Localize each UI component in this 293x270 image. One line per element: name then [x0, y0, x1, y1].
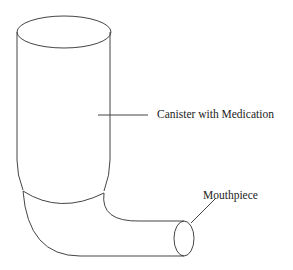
canister-label: Canister with Medication: [157, 109, 274, 121]
mouthpiece-opening: [174, 221, 194, 256]
canister-join: [23, 191, 104, 204]
elbow-inner: [104, 193, 184, 221]
mouthpiece-leader-line: [191, 198, 216, 223]
canister-top: [17, 16, 111, 48]
inhaler-diagram: [0, 0, 293, 270]
canister-body-right: [104, 32, 110, 191]
mouthpiece-label: Mouthpiece: [203, 190, 258, 202]
canister-body-left: [17, 32, 23, 190]
